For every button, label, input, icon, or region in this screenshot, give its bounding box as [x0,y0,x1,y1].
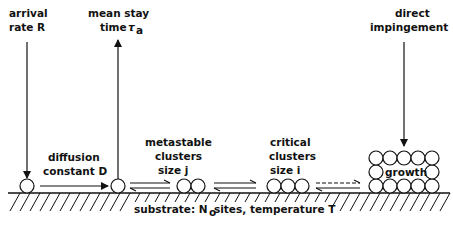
substrate-label-a: substrate: N [134,203,208,215]
impingement-label-line1: direct [395,7,430,19]
cluster-atom [177,179,191,193]
cluster-atom [191,179,205,193]
cluster-atom [281,179,295,193]
nucleation-diagram: arrival rate R mean stay time τ a diffus… [0,0,453,225]
cluster-atom [295,179,309,193]
equilibrium-arrows [130,180,170,191]
growth-arrows [316,180,360,191]
diffusion-label-line1: diffusion [48,151,100,163]
arrival-label-line1: arrival [9,7,48,19]
metastable-label-line3: size j [158,164,188,176]
impingement-label-line2: impingement [370,21,448,33]
cluster-atom [267,179,281,193]
critical-label-line1: critical [270,136,311,148]
tau-subscript: a [136,24,143,36]
metastable-label-line2: clusters [155,150,202,162]
metastable-label-line1: metastable [145,136,212,148]
growth-label: growth [385,166,427,178]
critical-label-line2: clusters [269,150,316,162]
substrate-label-b: sites, temperature T [214,203,336,215]
substrate-label: substrate: N o sites, temperature T [132,202,336,218]
adatom-circle [20,179,34,193]
tau-symbol: τ [128,21,135,33]
stay-label-line2: time [100,21,127,33]
stay-label-line1: mean stay [88,7,149,19]
arrival-label-line2: rate R [9,21,45,33]
diffusion-label-line2: constant D [43,165,107,177]
adatom-circle [111,179,125,193]
equilibrium-arrows [214,180,256,191]
critical-label-line3: size i [270,164,300,176]
